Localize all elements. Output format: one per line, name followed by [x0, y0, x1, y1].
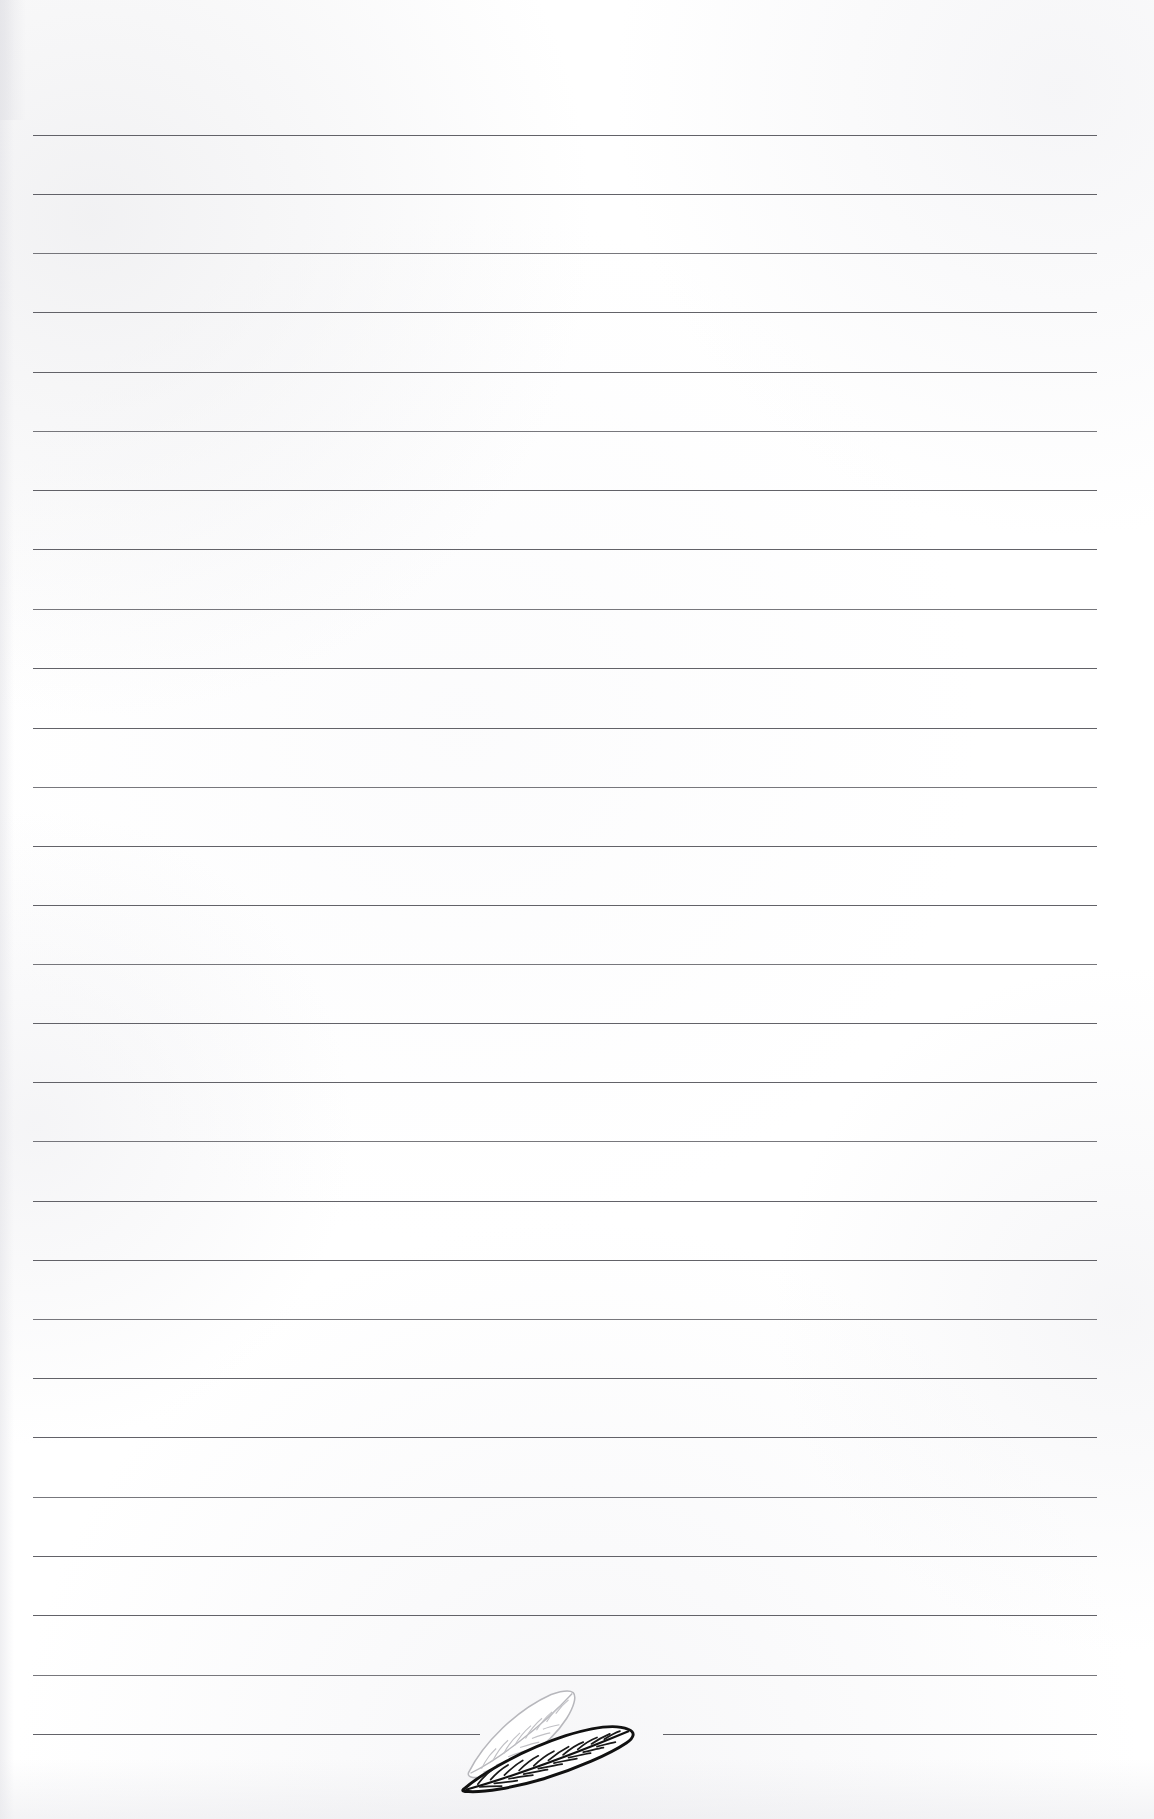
rule-line-15 [33, 964, 1097, 965]
rule-line-24 [33, 1497, 1097, 1498]
rule-line-3 [33, 253, 1097, 254]
ruled-lines-layer [0, 0, 1154, 1819]
rule-line-5 [33, 372, 1097, 373]
rule-line-19 [33, 1201, 1097, 1202]
rule-line-25 [33, 1556, 1097, 1557]
rule-line-13 [33, 846, 1097, 847]
rule-line-14 [33, 905, 1097, 906]
rule-line-28-left [33, 1734, 480, 1735]
rule-line-12 [33, 787, 1097, 788]
rule-line-21 [33, 1319, 1097, 1320]
rule-line-10 [33, 668, 1097, 669]
rule-line-20 [33, 1260, 1097, 1261]
rule-line-22 [33, 1378, 1097, 1379]
rule-line-27 [33, 1675, 1097, 1676]
rule-line-28-right [663, 1734, 1097, 1735]
rule-line-16 [33, 1023, 1097, 1024]
rule-line-2 [33, 194, 1097, 195]
rule-line-9 [33, 609, 1097, 610]
notepad-page [0, 0, 1154, 1819]
rule-line-17 [33, 1082, 1097, 1083]
rule-line-1 [33, 135, 1097, 136]
rule-line-8 [33, 549, 1097, 550]
rule-line-11 [33, 728, 1097, 729]
rule-line-7 [33, 490, 1097, 491]
rule-line-23 [33, 1437, 1097, 1438]
rule-line-18 [33, 1141, 1097, 1142]
rule-line-26 [33, 1615, 1097, 1616]
rule-line-4 [33, 312, 1097, 313]
rule-line-6 [33, 431, 1097, 432]
